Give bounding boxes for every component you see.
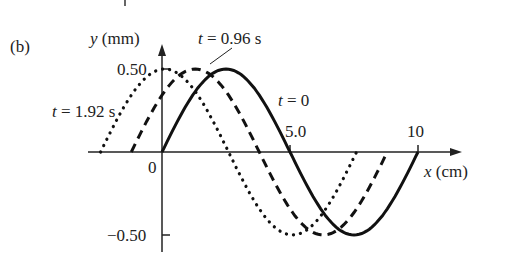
origin-label: 0 [148, 159, 157, 176]
label-t192: t = 1.92 s [52, 103, 115, 120]
x-axis-arrow-icon [450, 148, 462, 156]
y-axis-arrow-icon [158, 44, 166, 56]
x-tick-label-5: 5.0 [285, 123, 306, 140]
y-tick-label-neg: −0.50 [107, 227, 146, 244]
label-t096: t = 0.96 s [198, 30, 261, 47]
x-axis-label: x (cm) [424, 163, 468, 180]
y-axis-label: y (mm) [90, 30, 140, 47]
leader-line [210, 48, 232, 64]
y-tick-label-pos: 0.50 [117, 61, 147, 78]
label-t0: t = 0 [278, 92, 309, 109]
x-tick-label-10: 10 [407, 123, 424, 140]
panel-label: (b) [10, 38, 30, 55]
